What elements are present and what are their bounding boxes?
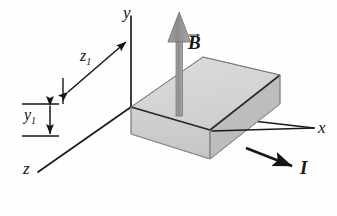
magnetic-field-label: B [188, 32, 201, 53]
conducting-slab [131, 57, 280, 159]
dimension-label-y1: y1 [24, 107, 36, 126]
dimension-label-z1: z1 [80, 48, 91, 67]
current-arrow [246, 148, 292, 166]
dimension-y1-subscript: 1 [31, 115, 36, 126]
z-axis-line [38, 107, 131, 172]
dimension-z1-subscript: 1 [86, 56, 91, 67]
y-axis-label: y [123, 4, 131, 21]
current-label: I [300, 158, 307, 177]
x-axis-label: x [318, 119, 326, 136]
physics-diagram-canvas [0, 0, 337, 216]
dimension-z1 [63, 42, 126, 104]
magnetic-field-label-group: B [188, 33, 201, 53]
z-axis-label: z [23, 160, 30, 177]
